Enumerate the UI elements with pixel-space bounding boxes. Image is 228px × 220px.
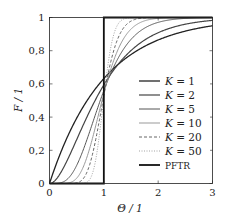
x-axis-label: Θ / 1 xyxy=(117,202,143,214)
y-tick-label: 0,2 xyxy=(29,145,45,156)
x-tick-label: 1 xyxy=(101,187,107,198)
x-tick-label: 3 xyxy=(209,187,215,198)
x-tick-label: 2 xyxy=(155,187,161,198)
legend-label: K = 1 xyxy=(164,75,195,87)
y-tick-label: 0,4 xyxy=(29,112,45,123)
y-tick-label: 0,6 xyxy=(29,78,45,89)
y-tick-label: 0 xyxy=(38,178,44,189)
legend-label: K = 20 xyxy=(164,131,202,143)
y-axis-label: F / 1 xyxy=(12,88,24,113)
cdf-chart: 012300,20,40,60,81 K = 1K = 2K = 5K = 10… xyxy=(0,0,228,220)
legend-label: K = 10 xyxy=(164,117,202,129)
legend-label: PFTR xyxy=(165,161,190,171)
legend-label: K = 2 xyxy=(164,89,195,101)
legend: K = 1K = 2K = 5K = 10K = 20K = 50PFTR xyxy=(134,73,210,171)
x-tick-label: 0 xyxy=(46,187,52,198)
legend-label: K = 50 xyxy=(164,145,202,157)
y-tick-label: 0,8 xyxy=(29,45,45,56)
legend-label: K = 5 xyxy=(164,103,195,115)
y-tick-label: 1 xyxy=(38,12,44,23)
